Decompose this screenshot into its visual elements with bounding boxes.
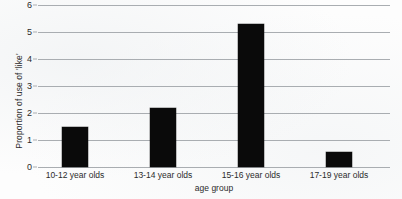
x-tick-label-0: 10-12 year olds — [46, 170, 105, 180]
y-axis-tick-labels: 0123456 — [6, 5, 32, 167]
y-tick-label-1: 1 — [8, 135, 32, 145]
x-tick-label-2: 15-16 year olds — [222, 170, 281, 180]
gridline-3 — [38, 86, 390, 87]
y-tick-mark-4 — [33, 59, 37, 60]
x-axis-tick-labels: 10-12 year olds13-14 year olds15-16 year… — [38, 170, 390, 184]
y-tick-label-6: 6 — [8, 0, 32, 10]
x-tick-label-3: 17-19 year olds — [310, 170, 369, 180]
y-tick-mark-2 — [33, 113, 37, 114]
x-tick-label-1: 13-14 year olds — [134, 170, 193, 180]
y-tick-mark-3 — [33, 86, 37, 87]
gridline-0 — [38, 167, 390, 168]
gridline-2 — [38, 113, 390, 114]
bar-chart: Proportion of use of 'like' 0123456 10-1… — [0, 0, 402, 199]
y-tick-mark-0 — [33, 167, 37, 168]
y-tick-mark-1 — [33, 140, 37, 141]
x-axis-title: age group — [38, 183, 390, 193]
y-tick-label-5: 5 — [8, 27, 32, 37]
gridline-1 — [38, 140, 390, 141]
plot-area — [38, 5, 390, 167]
y-tick-label-3: 3 — [8, 81, 32, 91]
y-tick-mark-5 — [33, 32, 37, 33]
gridline-6 — [38, 5, 390, 6]
bar-2 — [238, 24, 264, 167]
y-tick-label-0: 0 — [8, 162, 32, 172]
y-tick-mark-6 — [33, 5, 37, 6]
y-tick-label-2: 2 — [8, 108, 32, 118]
y-tick-label-4: 4 — [8, 54, 32, 64]
bar-1 — [150, 108, 176, 167]
gridline-5 — [38, 32, 390, 33]
bar-0 — [62, 127, 88, 168]
bar-3 — [326, 152, 352, 167]
gridline-4 — [38, 59, 390, 60]
